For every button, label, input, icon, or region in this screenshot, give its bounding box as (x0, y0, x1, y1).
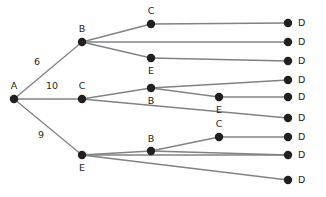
tree-node-label-n0: A (11, 80, 18, 91)
tree-edge-n7-to-d9 (82, 155, 288, 180)
tree-diagram-canvas: ABCECBEEBCDDDDDDDDD 6109 (0, 0, 326, 197)
tree-node-label-d7: D (298, 131, 305, 142)
tree-node-label-d3: D (298, 55, 305, 66)
tree-node-label-n2: C (148, 5, 155, 16)
tree-node-label-n5: B (148, 95, 155, 106)
tree-edge-n5-to-n6 (151, 88, 219, 97)
edge-weight-label-n0-n7: 9 (38, 129, 44, 140)
tree-edge-n3-to-d3 (151, 58, 288, 61)
tree-node-label-n1: B (79, 23, 86, 34)
tree-node-n4[interactable] (78, 95, 86, 103)
tree-edge-n5-to-d4 (151, 80, 288, 88)
tree-node-n8[interactable] (147, 147, 155, 155)
tree-node-label-d1: D (298, 17, 305, 28)
edge-weight-label-n0-n4: 10 (46, 80, 58, 91)
tree-edge-n1-to-n2 (82, 24, 151, 42)
tree-node-n9[interactable] (215, 133, 223, 141)
tree-node-label-d4: D (298, 74, 305, 85)
tree-node-label-d9: D (298, 174, 305, 185)
tree-node-d7[interactable] (284, 133, 292, 141)
tree-edge-n0-to-n7 (14, 99, 82, 155)
tree-node-label-d6: D (298, 112, 305, 123)
tree-node-label-n7: E (79, 162, 85, 173)
tree-node-d5[interactable] (284, 93, 292, 101)
tree-node-label-n8: B (148, 133, 155, 144)
tree-edge-n4-to-n5 (82, 88, 151, 99)
tree-node-d2[interactable] (284, 38, 292, 46)
tree-node-label-n9: C (216, 118, 223, 129)
tree-node-label-n6: E (216, 104, 222, 115)
tree-node-label-d5: D (298, 91, 305, 102)
tree-node-n6[interactable] (215, 93, 223, 101)
node-labels-layer: ABCECBEEBCDDDDDDDDD (11, 5, 306, 185)
tree-node-d6[interactable] (284, 114, 292, 122)
tree-node-n7[interactable] (78, 151, 86, 159)
tree-node-label-d2: D (298, 36, 305, 47)
tree-node-n2[interactable] (147, 20, 155, 28)
tree-edge-n2-to-d1 (151, 23, 288, 24)
tree-edge-n8-to-n9 (151, 137, 219, 151)
tree-node-label-n4: C (79, 80, 86, 91)
tree-node-d9[interactable] (284, 176, 292, 184)
tree-node-n0[interactable] (10, 95, 18, 103)
edge-weight-label-n0-n1: 6 (34, 56, 40, 67)
tree-edge-n1-to-n3 (82, 42, 151, 58)
tree-node-n1[interactable] (78, 38, 86, 46)
tree-node-d3[interactable] (284, 57, 292, 65)
tree-node-n5[interactable] (147, 84, 155, 92)
tree-node-label-n3: E (148, 65, 154, 76)
tree-node-d4[interactable] (284, 76, 292, 84)
edge-weights-layer: 6109 (34, 56, 58, 140)
tree-node-d8[interactable] (284, 151, 292, 159)
tree-node-d1[interactable] (284, 19, 292, 27)
tree-node-n3[interactable] (147, 54, 155, 62)
tree-node-label-d8: D (298, 149, 305, 160)
tree-edge-n4-to-d6 (82, 99, 288, 118)
tree-diagram-svg: ABCECBEEBCDDDDDDDDD 6109 (0, 0, 326, 197)
